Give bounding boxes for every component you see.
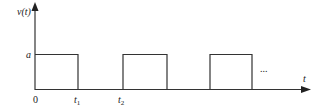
amplitude-label: a xyxy=(26,49,31,60)
y-axis-arrow-icon xyxy=(32,2,39,11)
tick-label-t1: t1 xyxy=(74,94,81,107)
pulse-1 xyxy=(35,55,78,90)
ellipsis: ... xyxy=(260,63,268,74)
x-axis-arrow-icon xyxy=(301,86,311,93)
pulse-3 xyxy=(210,55,252,90)
pulse-train-diagram: v(t) a 0 t1 t2 ... t xyxy=(0,0,325,110)
pulse-2 xyxy=(123,55,167,90)
tick-label-t2: t2 xyxy=(118,94,125,107)
y-axis-label: v(t) xyxy=(17,6,32,18)
x-axis-label: t xyxy=(303,73,306,84)
origin-label: 0 xyxy=(33,94,38,105)
